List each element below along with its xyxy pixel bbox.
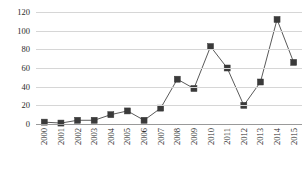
- x-tick-label: 2007: [156, 128, 166, 145]
- data-point-marker: [257, 79, 263, 85]
- x-axis-labels: 2000200120022003200420052006200720082009…: [36, 126, 302, 169]
- data-point-marker: [91, 117, 97, 123]
- x-tick-label: 2002: [73, 128, 83, 145]
- data-point-marker: [174, 76, 180, 82]
- y-tick-label: 60: [22, 63, 31, 73]
- x-tick-label: 2015: [289, 128, 299, 145]
- x-tick-label: 2011: [222, 128, 232, 145]
- plot-area: [36, 12, 302, 124]
- x-tick-label: 2014: [272, 128, 282, 145]
- x-tick-label: 2012: [239, 128, 249, 145]
- y-tick-label: 100: [17, 26, 30, 36]
- x-tick-label: 2010: [206, 128, 216, 145]
- y-tick-label: 20: [22, 100, 31, 110]
- y-tick-label: 0: [26, 119, 30, 129]
- x-tick-label: 2001: [56, 128, 66, 145]
- data-point-marker: [141, 117, 147, 123]
- x-tick-label: 2004: [106, 128, 116, 145]
- y-tick-label: 80: [22, 44, 31, 54]
- gridline: [36, 87, 302, 88]
- x-tick-label: 2009: [189, 128, 199, 145]
- y-tick-label: 120: [17, 7, 30, 17]
- gridline: [36, 12, 302, 13]
- data-point-marker: [124, 108, 130, 114]
- gridline: [36, 49, 302, 50]
- data-point-marker: [75, 117, 81, 123]
- data-point-marker: [108, 112, 114, 118]
- x-tick-label: 2003: [89, 128, 99, 145]
- data-point-marker: [274, 16, 280, 22]
- line-chart: 020406080100120 200020012002200320042005…: [0, 0, 308, 169]
- gridline: [36, 68, 302, 69]
- y-tick-label: 40: [22, 82, 31, 92]
- series-line: [44, 19, 293, 123]
- x-tick-label: 2000: [39, 128, 49, 145]
- x-axis-line: [36, 124, 302, 125]
- y-axis-labels: 020406080100120: [0, 0, 34, 169]
- x-tick-label: 2013: [255, 128, 265, 145]
- x-tick-label: 2005: [122, 128, 132, 145]
- gridline: [36, 105, 302, 106]
- gridline: [36, 31, 302, 32]
- x-tick-label: 2006: [139, 128, 149, 145]
- data-point-marker: [291, 59, 297, 65]
- x-tick-label: 2008: [172, 128, 182, 145]
